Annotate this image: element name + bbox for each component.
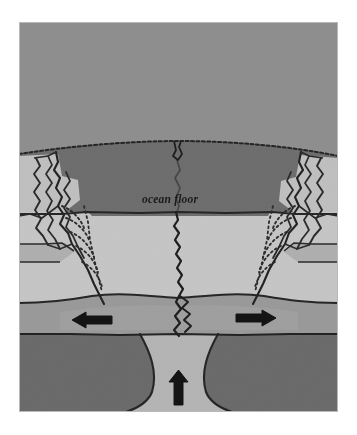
figure-root: ocean floor [0, 0, 357, 435]
texture-noise [19, 22, 338, 412]
seafloor-spreading-diagram: ocean floor [0, 0, 357, 435]
